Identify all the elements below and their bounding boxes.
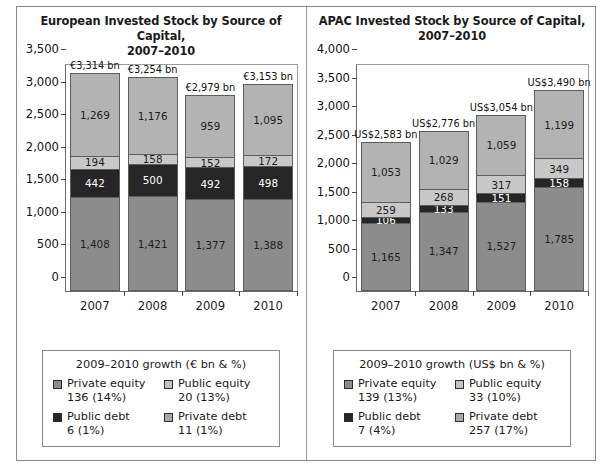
- bar-segment[interactable]: 133: [420, 206, 468, 214]
- legend-item-value: 139 (13%): [344, 391, 449, 405]
- bar-segment-value-label: 1,408: [80, 239, 110, 249]
- legend-item[interactable]: Public equity33 (10%): [455, 377, 560, 405]
- stacked-bar[interactable]: 1,3884981721,095€3,153 bn: [243, 84, 293, 291]
- stacked-bar[interactable]: 1,1651062591,053US$2,583 bn: [361, 142, 411, 291]
- bar-segment[interactable]: 492: [186, 168, 234, 200]
- bar-segment-value-label: 1,199: [544, 120, 574, 130]
- legend-item[interactable]: Public debt6 (1%): [53, 410, 158, 438]
- bar-total-label: €2,979 bn: [185, 82, 235, 93]
- legend-item-value: 136 (14%): [53, 391, 158, 405]
- bar-slot: 20071,4084421941,269€3,314 bn: [66, 65, 124, 291]
- bar-segment[interactable]: 1,347: [420, 213, 468, 290]
- bar-segment[interactable]: 1,408: [71, 198, 119, 290]
- legend-item[interactable]: Public equity20 (13%): [164, 377, 269, 405]
- legend-swatch-icon: [344, 380, 353, 389]
- bar-segment[interactable]: 152: [186, 158, 234, 168]
- legend-item-value: 11 (1%): [164, 424, 269, 438]
- legend-item-header: Private equity: [344, 377, 449, 391]
- bar-segment[interactable]: 151: [477, 194, 525, 203]
- legend-item[interactable]: Private equity139 (13%): [344, 377, 449, 405]
- bar-segment-value-label: 1,527: [487, 241, 517, 251]
- legend-title: 2009–2010 growth (€ bn & %): [53, 358, 269, 371]
- bar-slot: 20091,5271513171,059US$3,054 bn: [473, 65, 531, 291]
- bar-segment[interactable]: 498: [244, 167, 292, 199]
- x-axis-tick-label: 2009: [196, 299, 226, 313]
- legend-item[interactable]: Private debt257 (17%): [455, 410, 560, 438]
- x-axis-tick-label: 2010: [253, 299, 283, 313]
- bar-segment[interactable]: 1,053: [362, 143, 410, 203]
- bar-total-label: US$2,776 bn: [412, 118, 475, 129]
- bar-segment-value-label: 1,029: [429, 155, 459, 165]
- legend-swatch-icon: [53, 380, 62, 389]
- bar-segment[interactable]: 959: [186, 96, 234, 158]
- y-axis-tick-label: 0: [343, 270, 357, 284]
- bar-segment[interactable]: 172: [244, 156, 292, 167]
- legend-item[interactable]: Public debt7 (4%): [344, 410, 449, 438]
- y-axis-tick-label: 3,500: [317, 71, 357, 85]
- legend-item-header: Private debt: [164, 410, 269, 424]
- bar-segment[interactable]: 268: [420, 190, 468, 205]
- legend-item-label: Public debt: [358, 410, 421, 424]
- stacked-bar[interactable]: 1,377492152959€2,979 bn: [185, 95, 235, 291]
- bar-segment-value-label: 1,377: [196, 240, 226, 250]
- bar-segment[interactable]: 1,029: [420, 132, 468, 191]
- stacked-bar[interactable]: 1,4215001581,176€3,254 bn: [128, 77, 178, 291]
- bar-segment[interactable]: 158: [129, 155, 177, 165]
- bar-segment[interactable]: 1,421: [129, 197, 177, 290]
- bar-segment-value-label: 268: [434, 192, 454, 202]
- bar-slot: 20101,3884981721,095€3,153 bn: [239, 65, 297, 291]
- stacked-bar[interactable]: 1,7851583491,199US$3,490 bn: [534, 90, 584, 291]
- bar-segment-value-label: 152: [200, 158, 220, 168]
- chart-title-line1: European Invested Stock by Source of Cap…: [26, 14, 296, 44]
- legend-item[interactable]: Private debt11 (1%): [164, 410, 269, 438]
- y-axis-tick-label: 1,500: [317, 185, 357, 199]
- bar-segment-value-label: 500: [143, 175, 163, 185]
- bar-segment[interactable]: 1,165: [362, 224, 410, 290]
- bar-segment[interactable]: 259: [362, 203, 410, 218]
- legend-european: 2009–2010 growth (€ bn & %) Private equi…: [42, 350, 280, 447]
- bar-segment[interactable]: 1,059: [477, 116, 525, 176]
- legend-swatch-icon: [164, 413, 173, 422]
- legend-swatch-icon: [344, 413, 353, 422]
- bar-segment-value-label: 498: [258, 178, 278, 188]
- stacked-bar[interactable]: 1,3471332681,029US$2,776 bn: [419, 131, 469, 291]
- bar-segment[interactable]: 1,269: [71, 74, 119, 157]
- x-axis-tick-mark: [182, 291, 183, 296]
- x-axis-tick-label: 2010: [544, 299, 574, 313]
- bar-segment[interactable]: 500: [129, 165, 177, 198]
- bar-segment[interactable]: 158: [535, 179, 583, 188]
- stacked-bar[interactable]: 1,5271513171,059US$3,054 bn: [476, 115, 526, 291]
- x-axis-tick-label: 2008: [138, 299, 168, 313]
- stacked-bar[interactable]: 1,4084421941,269€3,314 bn: [70, 73, 120, 291]
- bar-segment[interactable]: 317: [477, 176, 525, 194]
- legend-item-value: 20 (13%): [164, 391, 269, 405]
- bar-total-label: US$3,054 bn: [470, 102, 533, 113]
- bar-segment[interactable]: 442: [71, 170, 119, 199]
- legend-item-header: Private debt: [455, 410, 560, 424]
- bar-segment[interactable]: 349: [535, 159, 583, 179]
- bar-slot: 20101,7851583491,199US$3,490 bn: [530, 65, 588, 291]
- bar-total-label: €3,314 bn: [70, 60, 120, 71]
- bar-segment[interactable]: 1,176: [129, 78, 177, 155]
- bar-segment[interactable]: 1,377: [186, 200, 234, 290]
- bar-segment[interactable]: 1,527: [477, 203, 525, 290]
- legend-item-value: 7 (4%): [344, 424, 449, 438]
- bar-segment[interactable]: 194: [71, 157, 119, 170]
- bar-segment[interactable]: 106: [362, 218, 410, 224]
- bar-segment[interactable]: 1,199: [535, 91, 583, 159]
- bar-segment[interactable]: 1,785: [535, 188, 583, 290]
- bar-segment-value-label: 172: [258, 156, 278, 166]
- legend-item[interactable]: Private equity136 (14%): [53, 377, 158, 405]
- legend-title: 2009–2010 growth (US$ bn & %): [344, 358, 560, 371]
- x-axis-tick-mark: [297, 291, 298, 296]
- x-axis-tick-mark: [124, 291, 125, 296]
- legend-item-label: Private equity: [67, 377, 146, 391]
- bar-slot: 20081,4215001581,176€3,254 bn: [124, 65, 182, 291]
- bar-segment[interactable]: 1,095: [244, 85, 292, 156]
- legend-apac: 2009–2010 growth (US$ bn & %) Private eq…: [333, 350, 571, 447]
- y-axis-tick-label: 1,000: [26, 205, 66, 219]
- bar-segment-value-label: 1,388: [253, 240, 283, 250]
- y-axis-tick-label: 4,000: [317, 42, 357, 56]
- bar-slot: 20091,377492152959€2,979 bn: [182, 65, 240, 291]
- bar-segment[interactable]: 1,388: [244, 200, 292, 290]
